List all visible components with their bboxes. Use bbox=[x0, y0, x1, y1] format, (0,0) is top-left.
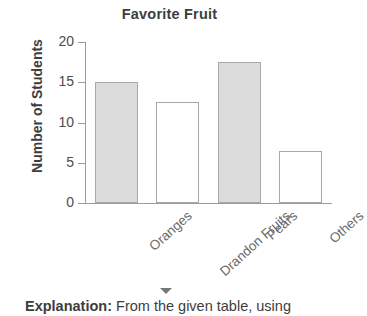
chevron-down-icon bbox=[160, 288, 172, 294]
bar-drandon-fruits bbox=[156, 102, 199, 203]
y-tick-label: 20 bbox=[34, 34, 74, 48]
chart-title: Favorite Fruit bbox=[0, 6, 339, 22]
plot-area bbox=[86, 42, 331, 203]
y-tick-label: 5 bbox=[34, 155, 74, 169]
x-tick-label-oranges: Oranges bbox=[146, 208, 195, 254]
y-tick-label: 0 bbox=[34, 195, 74, 209]
y-tick bbox=[78, 123, 86, 124]
y-tick-label: 10 bbox=[34, 115, 74, 129]
bar-oranges bbox=[95, 82, 138, 203]
y-tick bbox=[78, 82, 86, 83]
x-tick-label-others: Others bbox=[327, 208, 367, 246]
x-axis-line bbox=[85, 203, 332, 204]
bar-others bbox=[279, 151, 322, 203]
explanation-text: Explanation: From the given table, using bbox=[0, 297, 339, 315]
y-tick bbox=[78, 42, 86, 43]
y-tick bbox=[78, 203, 86, 204]
bar-pears bbox=[218, 62, 261, 203]
y-tick bbox=[78, 163, 86, 164]
y-tick-label: 15 bbox=[34, 74, 74, 88]
explanation-label: Explanation: bbox=[25, 298, 112, 314]
explanation-block: Explanation: From the given table, using bbox=[0, 297, 339, 316]
explanation-body: From the given table, using bbox=[112, 298, 291, 314]
